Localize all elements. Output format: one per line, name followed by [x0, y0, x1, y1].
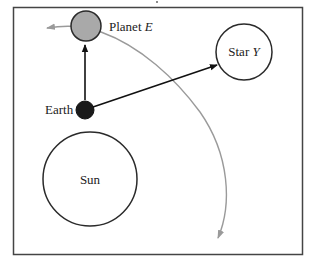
earth-label: Earth	[45, 102, 74, 117]
planet-e-icon	[71, 11, 101, 41]
earth: Earth	[45, 101, 94, 119]
earth-icon	[76, 101, 94, 119]
star-y-label: Star Y	[228, 44, 261, 59]
sun: Sun	[43, 132, 137, 226]
astronomy-diagram: Planet E Star Y Earth Sun	[0, 0, 310, 259]
planet-e-label: Planet E	[109, 19, 153, 34]
cropped-caption-fragment	[156, 1, 158, 3]
star-y: Star Y	[216, 24, 272, 80]
sun-label: Sun	[80, 172, 101, 187]
arrow-earth-to-star-y	[93, 65, 217, 107]
